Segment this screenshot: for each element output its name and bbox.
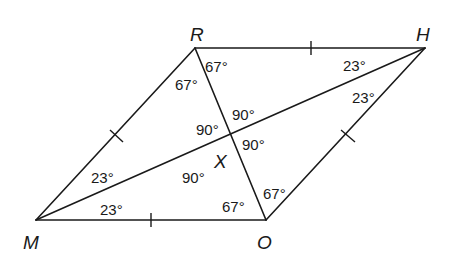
- vertex-label-M: M: [23, 232, 39, 253]
- angle-R-top: 67°: [205, 58, 228, 75]
- angle-O-left: 67°: [222, 198, 245, 215]
- angle-H-upper: 23°: [343, 57, 366, 74]
- vertex-label-H: H: [416, 24, 430, 45]
- angle-X-left: 90°: [196, 121, 219, 138]
- rhombus-diagram: R H M O X 67° 67° 23° 23° 23° 23° 67° 67…: [0, 0, 459, 266]
- angle-R-left: 67°: [175, 76, 198, 93]
- angle-X-top: 90°: [232, 106, 255, 123]
- vertex-label-O: O: [257, 232, 272, 253]
- diagram-svg: R H M O X 67° 67° 23° 23° 23° 23° 67° 67…: [0, 0, 459, 266]
- side-MR: [36, 48, 195, 220]
- angle-X-right: 90°: [242, 136, 265, 153]
- intersection-label-X: X: [213, 151, 228, 172]
- angle-M-lower: 23°: [100, 201, 123, 218]
- angle-X-bottom: 90°: [182, 169, 205, 186]
- angle-H-lower: 23°: [352, 89, 375, 106]
- angle-M-upper: 23°: [91, 169, 114, 186]
- diagonal-MH: [36, 48, 425, 220]
- angle-O-right: 67°: [263, 185, 286, 202]
- vertex-label-R: R: [190, 24, 204, 45]
